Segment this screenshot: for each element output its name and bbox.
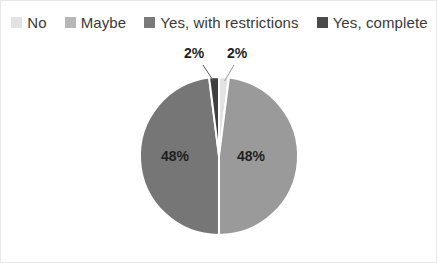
pie-label-maybe: 48% <box>237 148 265 164</box>
pie-label-yes-with-restrictions: 48% <box>161 148 189 164</box>
pie-label-yes-complete: 2% <box>184 45 204 61</box>
pie-chart-container: No Maybe Yes, with restrictions Yes, com… <box>0 0 437 263</box>
pie-svg <box>1 1 437 263</box>
pie-plot-area: 48% 48% 2% 2% <box>1 1 437 263</box>
pie-label-no: 2% <box>227 45 247 61</box>
